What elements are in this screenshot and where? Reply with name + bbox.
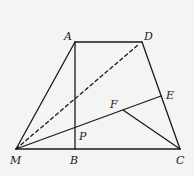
label-M: M [9,154,22,167]
label-A: A [63,30,72,43]
label-P: P [78,130,87,143]
segment-MA [16,42,75,149]
segment-ME [16,96,161,149]
label-B: B [69,154,78,167]
geometry-figure: A D M B C E F P [0,0,194,176]
label-E: E [165,89,174,102]
label-C: C [176,154,185,167]
label-F: F [109,98,118,111]
segment-FC [123,110,180,149]
label-D: D [143,30,153,43]
segment-MD-dashed [16,45,138,149]
